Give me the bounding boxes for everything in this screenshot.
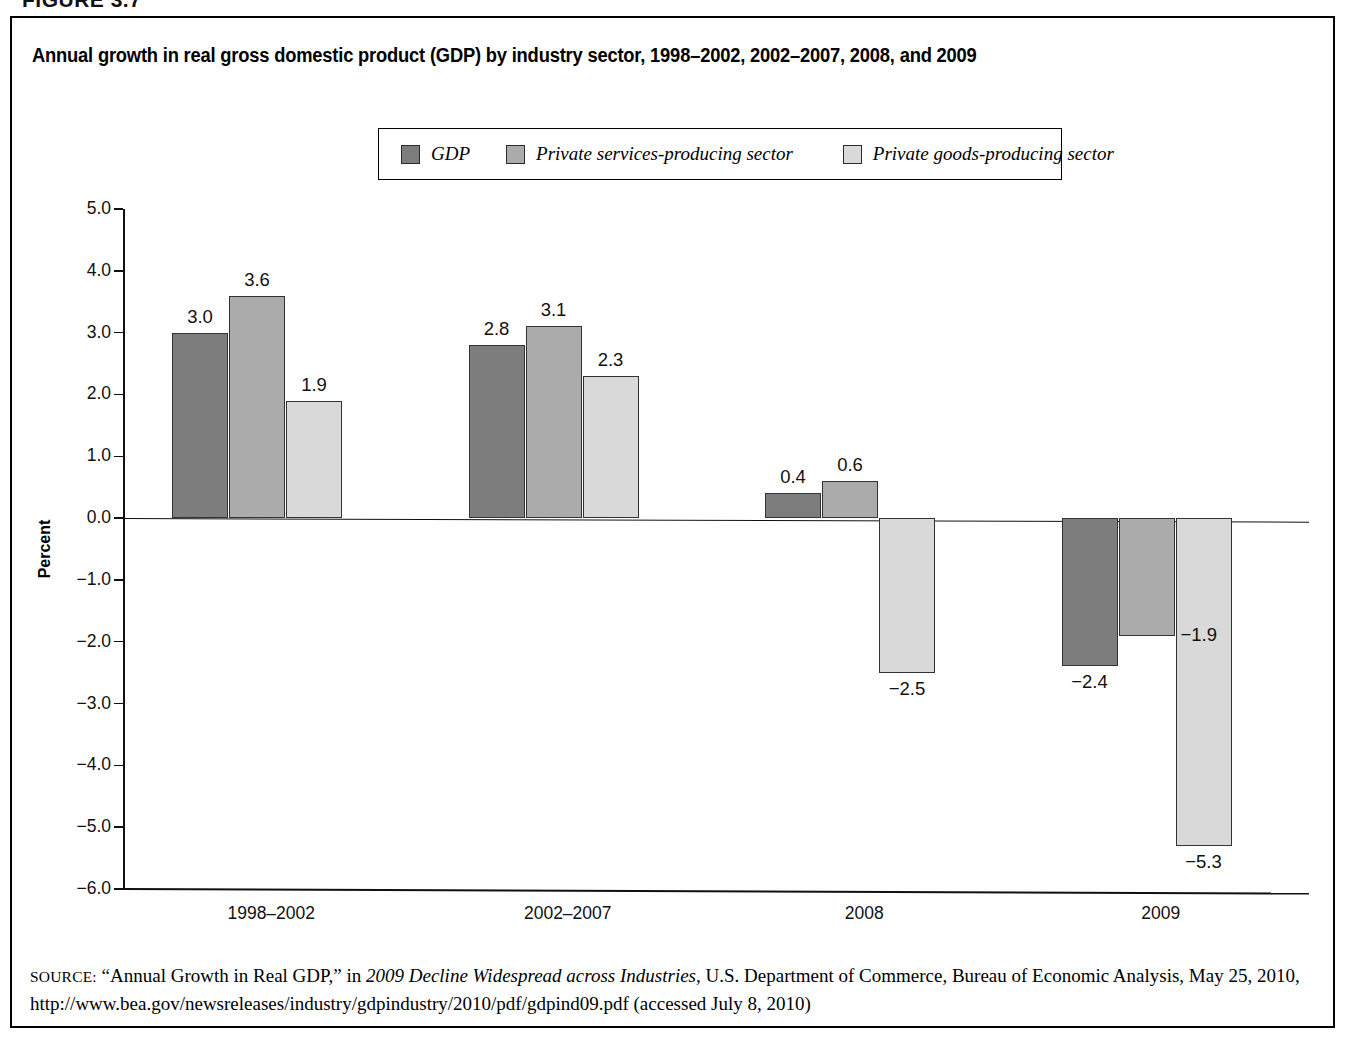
legend-item-private-services[interactable]: Private services-producing sector xyxy=(506,129,793,179)
y-axis-tick xyxy=(114,394,123,395)
legend-item-private-goods[interactable]: Private goods-producing sector xyxy=(843,129,1114,179)
y-axis-tick xyxy=(114,765,123,766)
y-axis-tick-label: 4.0 xyxy=(87,260,111,281)
bar[interactable] xyxy=(172,333,228,518)
bar[interactable] xyxy=(1176,518,1232,846)
y-axis-tick-label: 1.0 xyxy=(87,445,111,466)
bar-value-label: 3.1 xyxy=(514,299,594,321)
source-label: SOURCE: xyxy=(30,968,97,985)
y-axis-tick-label: 5.0 xyxy=(87,198,111,219)
y-axis-tick xyxy=(114,703,123,704)
x-axis-category-labels: 1998–20022002–200720082009 xyxy=(123,903,1309,933)
bar[interactable] xyxy=(765,493,821,518)
figure-caption: FIGURE 3.7 xyxy=(22,0,322,10)
source-publication-title: 2009 Decline Widespread across Industrie… xyxy=(366,965,696,986)
y-axis-tick-label: −4.0 xyxy=(76,754,111,775)
bar[interactable] xyxy=(583,376,639,518)
legend-swatch-gdp xyxy=(401,145,420,164)
y-axis-tick-labels: 5.04.03.02.01.00.0−1.0−2.0−3.0−4.0−5.0−6… xyxy=(45,209,111,889)
x-axis-category-label: 2008 xyxy=(716,903,1013,924)
y-axis-tick-label: −1.0 xyxy=(76,569,111,590)
y-axis-tick xyxy=(114,888,123,889)
y-axis-tick-label: 2.0 xyxy=(87,383,111,404)
bar-value-label: −2.4 xyxy=(1050,671,1130,693)
y-axis-tick-label: −6.0 xyxy=(76,878,111,899)
bar[interactable] xyxy=(469,345,525,518)
x-axis-category-label: 2002–2007 xyxy=(420,903,717,924)
bar[interactable] xyxy=(1119,518,1175,635)
source-note: SOURCE: “Annual Growth in Real GDP,” in … xyxy=(30,962,1310,1017)
x-axis-category-label: 1998–2002 xyxy=(123,903,420,924)
plot-area: Percent 5.04.03.02.01.00.0−1.0−2.0−3.0−4… xyxy=(123,209,1309,889)
y-axis-tick xyxy=(114,826,123,827)
legend-swatch-private-goods xyxy=(843,145,862,164)
bar-value-label: −1.9 xyxy=(1181,624,1218,646)
y-axis-tick xyxy=(114,208,123,209)
y-axis-tick xyxy=(114,456,123,457)
legend-swatch-private-services xyxy=(506,145,525,164)
bar-value-label: 3.6 xyxy=(217,269,297,291)
legend-label-private-services: Private services-producing sector xyxy=(536,143,793,165)
legend-label-gdp: GDP xyxy=(431,143,470,165)
y-axis-tick xyxy=(114,332,123,333)
bar-value-label: 2.3 xyxy=(571,349,651,371)
y-axis-tick-label: 3.0 xyxy=(87,322,111,343)
y-axis-line xyxy=(123,209,125,889)
bar[interactable] xyxy=(229,296,285,519)
legend-label-private-goods: Private goods-producing sector xyxy=(873,143,1114,165)
y-axis-tick-label: 0.0 xyxy=(87,507,111,528)
y-axis-tick-label: −2.0 xyxy=(76,631,111,652)
bar-value-label: −5.3 xyxy=(1164,851,1244,873)
y-axis-tick xyxy=(114,270,123,271)
bar[interactable] xyxy=(879,518,935,673)
page-title: Annual growth in real gross domestic pro… xyxy=(32,44,1198,67)
bar-value-label: 1.9 xyxy=(274,374,354,396)
y-axis-tick-label: −5.0 xyxy=(76,816,111,837)
bar[interactable] xyxy=(286,401,342,518)
bar[interactable] xyxy=(1062,518,1118,666)
x-axis-category-label: 2009 xyxy=(1013,903,1310,924)
y-axis-tick-label: −3.0 xyxy=(76,693,111,714)
bar-value-label: 3.0 xyxy=(160,306,240,328)
y-axis-tick xyxy=(114,641,123,642)
y-axis-tick xyxy=(114,517,123,518)
bar-value-label: 0.6 xyxy=(810,454,890,476)
chart-legend: GDP Private services-producing sector Pr… xyxy=(378,128,1062,180)
source-text-before: “Annual Growth in Real GDP,” in xyxy=(97,965,366,986)
legend-item-gdp[interactable]: GDP xyxy=(401,129,470,179)
y-axis-tick xyxy=(114,579,123,580)
bar-value-label: −2.5 xyxy=(867,678,947,700)
